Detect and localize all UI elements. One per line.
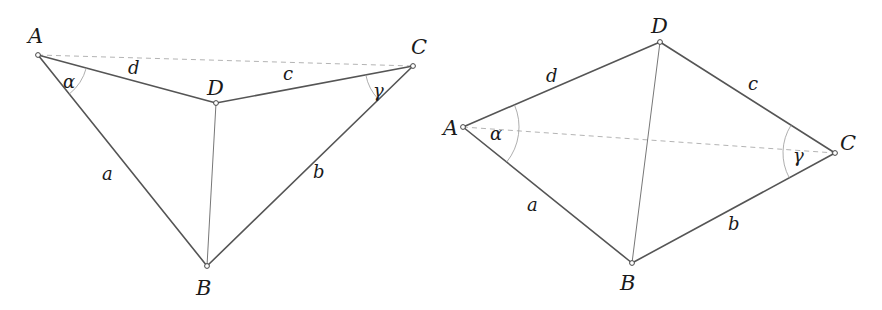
dashed-diagonal-AC [38,55,413,66]
vertex-point-D [658,40,663,45]
side-label-a: a [527,194,538,215]
side-label-b: b [313,161,325,182]
vertex-label-A: A [441,116,458,140]
angle-label-A: α [63,71,75,92]
angle-arc-C [783,125,791,178]
side-a [463,127,632,263]
angle-label-A: α [490,123,502,144]
side-b [632,153,835,263]
concave-quadrilateral: dcabαγABCD [26,24,427,300]
quadrilateral-diagram: dcabαγABCDdcabαγABCD [0,0,882,310]
side-label-d: d [546,65,558,86]
vertex-point-C [411,64,416,69]
side-label-d: d [128,57,140,78]
vertex-point-A [461,125,466,130]
vertex-label-D: D [206,76,224,100]
side-label-c: c [748,73,758,94]
angle-arc-A [507,105,519,162]
side-label-a: a [102,163,113,184]
side-label-b: b [728,213,740,234]
angle-label-C: γ [793,145,804,166]
diagonal-DB [207,103,216,266]
vertex-point-B [205,264,210,269]
vertex-label-C: C [840,131,856,155]
side-d [463,42,660,127]
vertex-point-B [630,261,635,266]
vertex-label-B: B [195,276,211,300]
side-label-c: c [283,63,293,84]
vertex-label-D: D [650,14,668,38]
vertex-point-C [833,151,838,156]
vertex-point-D [214,101,219,106]
vertex-point-A [36,53,41,58]
vertex-label-A: A [26,24,43,48]
side-c [660,42,835,153]
angle-label-C: γ [373,80,384,101]
vertex-label-B: B [619,271,635,295]
convex-quadrilateral: dcabαγABCD [441,14,856,295]
diagonal-DB [632,42,660,263]
vertex-label-C: C [411,35,427,59]
